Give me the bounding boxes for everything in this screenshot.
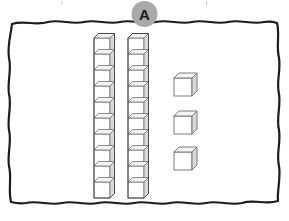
unit-cube-1: [174, 73, 197, 96]
top-edge-marks: [61, 1, 207, 6]
tens-rod-2: [128, 34, 149, 199]
badge-letter: A: [139, 6, 150, 23]
tens-rod-1: [94, 34, 115, 199]
base-ten-blocks-illustration: A: [0, 0, 289, 221]
unit-cube-2: [174, 111, 197, 134]
unit-cube-3: [174, 147, 197, 170]
diagram-canvas: A: [0, 0, 289, 221]
label-badge-a: A: [132, 1, 158, 27]
